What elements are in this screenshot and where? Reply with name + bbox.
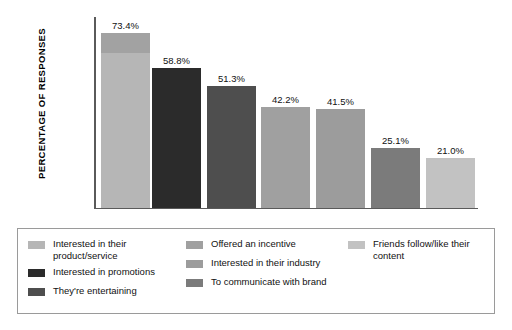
legend-swatch bbox=[28, 241, 45, 249]
legend: Interested in their product/serviceInter… bbox=[17, 228, 495, 314]
plot-area: PERCENTAGE OF RESPONSES 73.4%58.8%51.3%4… bbox=[0, 0, 512, 215]
bar: 58.8% bbox=[152, 68, 201, 208]
bar-series: 73.4%58.8%51.3%42.2%41.5%25.1%21.0% bbox=[94, 17, 478, 208]
legend-label: Offered an incentive bbox=[211, 238, 346, 250]
bar-value-label: 73.4% bbox=[112, 20, 139, 31]
bar-value-label: 25.1% bbox=[382, 135, 409, 146]
bar: 41.5% bbox=[316, 109, 365, 208]
bar: 25.1% bbox=[371, 148, 420, 208]
legend-column-2: Offered an incentiveInterested in their … bbox=[186, 238, 346, 295]
bar-rect bbox=[371, 148, 420, 208]
legend-label: Friends follow/like their content bbox=[373, 238, 493, 261]
bar: 73.4% bbox=[101, 33, 150, 208]
legend-swatch bbox=[186, 241, 203, 249]
bar-value-label: 41.5% bbox=[327, 96, 354, 107]
bar-value-label: 58.8% bbox=[163, 55, 190, 66]
legend-item: Interested in their industry bbox=[186, 257, 346, 271]
bar-value-label: 21.0% bbox=[437, 145, 464, 156]
legend-column-3: Friends follow/like their content bbox=[348, 238, 493, 266]
legend-item: They're entertaining bbox=[28, 285, 188, 299]
legend-swatch bbox=[28, 269, 45, 277]
legend-swatch bbox=[348, 241, 365, 249]
legend-item: Friends follow/like their content bbox=[348, 238, 493, 261]
bar-rect bbox=[207, 86, 256, 208]
legend-swatch bbox=[186, 260, 203, 268]
bar-value-label: 42.2% bbox=[272, 94, 299, 105]
legend-column-1: Interested in their product/serviceInter… bbox=[28, 238, 188, 304]
legend-label: Interested in promotions bbox=[53, 266, 188, 278]
bar: 51.3% bbox=[207, 86, 256, 208]
bar: 42.2% bbox=[261, 107, 310, 208]
bar-rect bbox=[101, 33, 150, 208]
legend-item: Interested in promotions bbox=[28, 266, 188, 280]
y-axis-title: PERCENTAGE OF RESPONSES bbox=[36, 19, 47, 189]
bar-rect bbox=[426, 158, 475, 208]
bar-value-label: 51.3% bbox=[218, 73, 245, 84]
bar: 21.0% bbox=[426, 158, 475, 208]
legend-swatch bbox=[28, 288, 45, 296]
legend-label: They're entertaining bbox=[53, 285, 188, 297]
legend-item: Offered an incentive bbox=[186, 238, 346, 252]
legend-label: To communicate with brand bbox=[211, 276, 346, 288]
legend-item: Interested in their product/service bbox=[28, 238, 188, 261]
legend-label: Interested in their industry bbox=[211, 257, 346, 269]
bar-rect bbox=[152, 68, 201, 208]
bar-rect bbox=[316, 109, 365, 208]
legend-label: Interested in their product/service bbox=[53, 238, 188, 261]
bar-rect bbox=[261, 107, 310, 208]
legend-item: To communicate with brand bbox=[186, 276, 346, 290]
bar-chart-figure: PERCENTAGE OF RESPONSES 73.4%58.8%51.3%4… bbox=[0, 0, 512, 330]
legend-swatch bbox=[186, 279, 203, 287]
bar-top-band bbox=[101, 33, 150, 53]
